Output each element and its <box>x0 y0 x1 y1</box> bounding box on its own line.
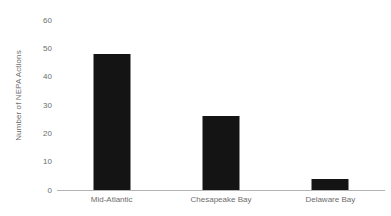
y-axis-tick-labels: 0102030405060 <box>26 0 52 216</box>
y-axis-tick-label: 0 <box>26 186 52 195</box>
x-axis-tick-label: Chesapeake Bay <box>166 193 275 206</box>
y-axis-tick-label: 60 <box>26 16 52 25</box>
plot-area <box>57 20 385 190</box>
y-axis-tick-label: 30 <box>26 101 52 110</box>
y-axis-title: Number of NEPA Actions <box>10 0 26 190</box>
x-axis-line <box>57 190 385 191</box>
x-axis-tick-label: Mid-Atlantic <box>57 193 166 206</box>
y-axis-tick-label: 50 <box>26 44 52 53</box>
bar-slot <box>57 20 166 190</box>
bar[interactable] <box>312 179 349 190</box>
y-axis-tick-label: 40 <box>26 72 52 81</box>
x-axis-tick-labels: Mid-AtlanticChesapeake BayDelaware Bay <box>57 193 385 209</box>
bar[interactable] <box>93 54 130 190</box>
y-axis-tick-label: 10 <box>26 157 52 166</box>
bar[interactable] <box>202 116 239 190</box>
y-axis-tick-label: 20 <box>26 129 52 138</box>
bar-slot <box>276 20 385 190</box>
bar-slot <box>166 20 275 190</box>
x-axis-tick-label: Delaware Bay <box>276 193 385 206</box>
y-axis-title-text: Number of NEPA Actions <box>14 50 23 141</box>
bar-chart: Number of NEPA Actions 0102030405060 Mid… <box>0 0 391 216</box>
